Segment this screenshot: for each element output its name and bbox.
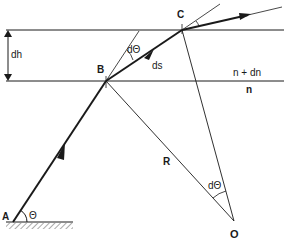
theta-angle-arc bbox=[20, 210, 27, 222]
radius-r-label: R bbox=[163, 157, 170, 167]
dh-label: dh bbox=[11, 50, 22, 60]
ray-segment-bc bbox=[106, 30, 182, 81]
point-a-label: A bbox=[2, 212, 9, 222]
ray-thin-continuation bbox=[248, 7, 282, 15]
ray-segment-c-out bbox=[182, 15, 248, 30]
ground-hatching bbox=[6, 223, 73, 229]
diagram-canvas bbox=[0, 0, 284, 248]
point-b-label: B bbox=[97, 65, 104, 75]
refraction-diagram: dh B C A O dΘ ds n + dn n R dΘ Θ bbox=[0, 0, 284, 248]
ab-extension-line bbox=[106, 31, 139, 81]
n-label: n bbox=[246, 85, 252, 95]
dtheta-bottom-label: dΘ bbox=[208, 181, 221, 191]
ds-label: ds bbox=[152, 61, 163, 71]
point-c-label: C bbox=[177, 10, 184, 20]
theta-label: Θ bbox=[29, 211, 37, 221]
dtheta-arc-bottom bbox=[213, 191, 226, 198]
ray-segment-ab bbox=[13, 81, 106, 222]
n-plus-dn-label: n + dn bbox=[233, 68, 261, 78]
ray-arrow-c-out bbox=[239, 13, 251, 20]
angle-arc-c bbox=[196, 21, 199, 26]
dtheta-top-label: dΘ bbox=[127, 45, 140, 55]
ray-arrow-ab bbox=[57, 143, 65, 160]
point-o-label: O bbox=[230, 229, 239, 240]
